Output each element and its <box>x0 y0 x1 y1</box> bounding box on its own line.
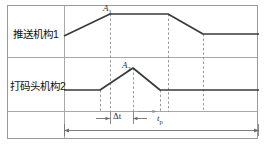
dimension-delta-t <box>96 112 147 124</box>
row-label-feed-mechanism-1: 推送机构1 <box>13 26 59 41</box>
figure-canvas: 推送机构1 打码头机构2 A1 A2 Δt tp <box>0 0 264 145</box>
curve-feed-mechanism-1 <box>64 14 259 36</box>
period-sub: p <box>160 118 163 125</box>
amplitude-a1-sub: 1 <box>109 8 112 15</box>
dimension-period-tp <box>64 124 259 136</box>
period-label-tp: tp <box>157 113 163 125</box>
amplitude-label-a1: A1 <box>103 3 112 15</box>
delta-t-label: Δt <box>113 111 121 121</box>
timing-diagram-svg <box>0 0 264 145</box>
dashed-guides <box>101 14 204 112</box>
row-label-coding-head-mechanism-2: 打码头机构2 <box>10 78 66 93</box>
curve-coding-head-mechanism-2 <box>64 68 259 90</box>
amplitude-label-a2: A2 <box>122 60 131 72</box>
axis-stub-arrow <box>138 110 157 113</box>
delta-t-text: Δt <box>113 111 121 121</box>
amplitude-a2-sub: 2 <box>128 65 131 72</box>
